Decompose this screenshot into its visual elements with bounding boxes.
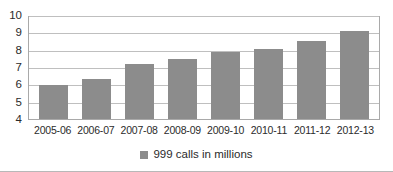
bar-slot bbox=[290, 16, 333, 119]
bar[interactable] bbox=[82, 79, 110, 119]
bar-series bbox=[29, 16, 379, 119]
bar-slot bbox=[247, 16, 290, 119]
bar[interactable] bbox=[211, 52, 239, 119]
bar[interactable] bbox=[254, 49, 282, 119]
bar[interactable] bbox=[125, 64, 153, 119]
y-axis-tick-label: 7 bbox=[16, 62, 22, 74]
y-axis-tick-label: 5 bbox=[16, 97, 22, 109]
bar[interactable] bbox=[297, 41, 325, 119]
x-axis-tick-label: 2007-08 bbox=[118, 121, 161, 139]
x-axis-tick-label: 2006-07 bbox=[74, 121, 117, 139]
x-axis-tick-label: 2010-11 bbox=[247, 121, 290, 139]
bar-slot bbox=[75, 16, 118, 119]
y-axis-tick-label: 4 bbox=[16, 114, 22, 126]
legend-item-label: 999 calls in millions bbox=[153, 149, 252, 161]
x-axis-tick-label: 2011-12 bbox=[291, 121, 334, 139]
legend-swatch-icon bbox=[140, 151, 148, 159]
bar[interactable] bbox=[340, 31, 368, 119]
bar-slot bbox=[333, 16, 376, 119]
x-axis-tick-label: 2012-13 bbox=[334, 121, 377, 139]
y-axis: 10987654 bbox=[0, 0, 26, 132]
chart-legend: 999 calls in millions bbox=[0, 145, 393, 165]
bar-slot bbox=[32, 16, 75, 119]
x-axis-tick-label: 2009-10 bbox=[204, 121, 247, 139]
y-axis-tick-label: 10 bbox=[9, 10, 22, 22]
x-axis: 2005-062006-072007-082008-092009-102010-… bbox=[28, 121, 380, 139]
x-axis-tick-label: 2005-06 bbox=[31, 121, 74, 139]
plot-wrapper: 10987654 2005-062006-072007-082008-09200… bbox=[0, 0, 393, 132]
bar-chart: 10987654 2005-062006-072007-082008-09200… bbox=[0, 0, 393, 172]
bar[interactable] bbox=[168, 59, 196, 119]
y-axis-tick-label: 6 bbox=[16, 80, 22, 92]
bar-slot bbox=[204, 16, 247, 119]
x-axis-tick-label: 2008-09 bbox=[161, 121, 204, 139]
y-axis-tick-label: 9 bbox=[16, 28, 22, 40]
bar-slot bbox=[161, 16, 204, 119]
bar-slot bbox=[118, 16, 161, 119]
y-axis-tick-label: 8 bbox=[16, 45, 22, 57]
plot-area bbox=[28, 16, 380, 120]
bar[interactable] bbox=[39, 85, 67, 119]
